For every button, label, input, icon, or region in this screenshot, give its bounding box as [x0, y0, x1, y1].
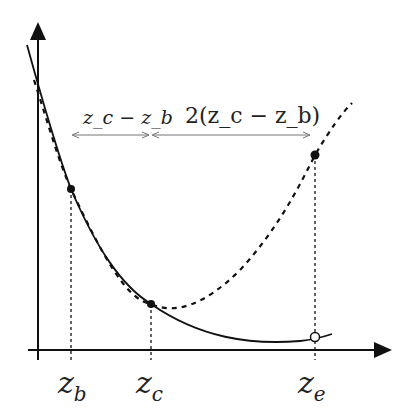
label-zc: zc	[135, 365, 163, 406]
label-zb: zb	[57, 365, 87, 406]
diagram-canvas: z_c − z_b 2(z_c − z_b) zb zc ze	[0, 0, 411, 420]
point-ze-open	[311, 333, 320, 342]
interval1-label: z_c − z_b	[82, 106, 173, 129]
label-ze: ze	[297, 365, 326, 406]
point-zc	[147, 300, 155, 308]
point-zb	[67, 185, 75, 193]
solid-curve	[27, 45, 332, 342]
interval2-label: 2(z_c − z_b)	[185, 103, 320, 128]
point-ze-dashed	[311, 151, 320, 160]
